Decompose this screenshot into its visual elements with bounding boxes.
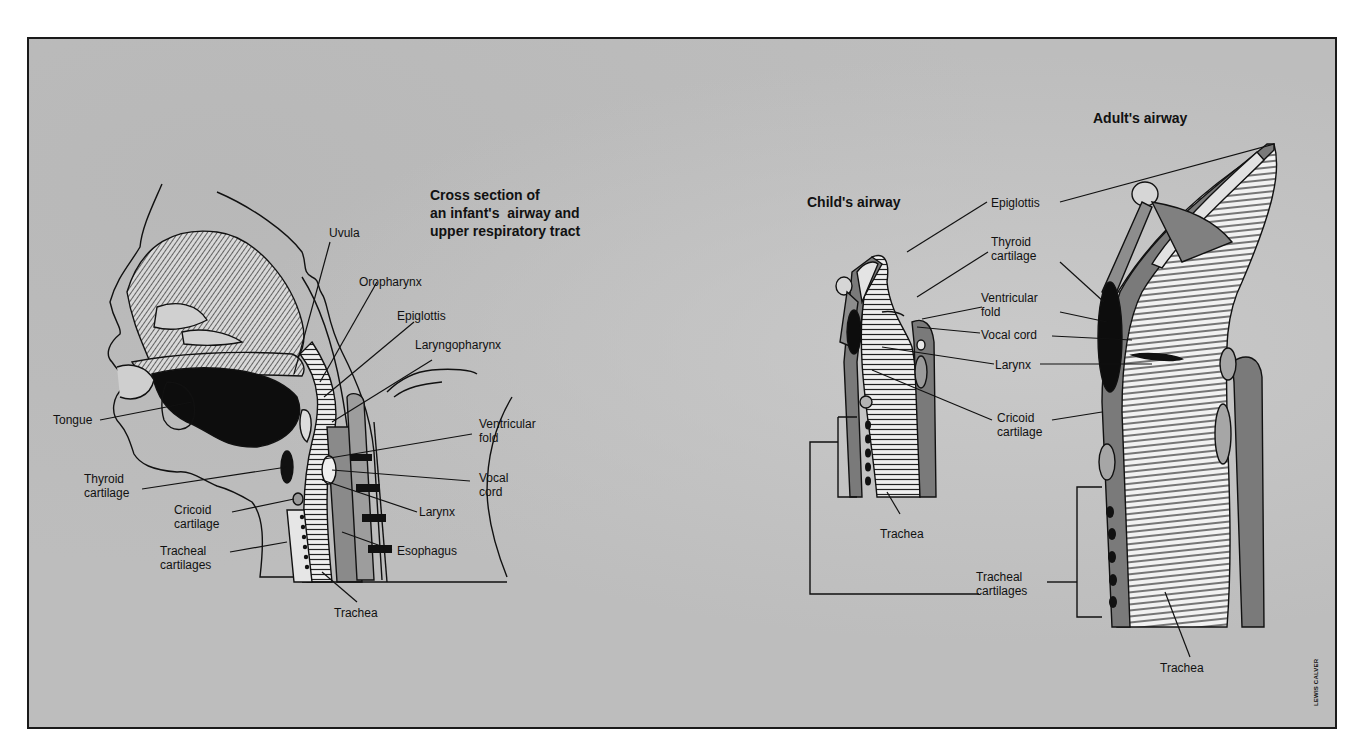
child-airway-title: Child's airway — [807, 193, 901, 211]
adult-airway-diagram — [1047, 144, 1277, 627]
label-cmp-thyroid-cartilage: Thyroid cartilage — [991, 235, 1036, 263]
label-esophagus: Esophagus — [397, 544, 457, 558]
label-laryngopharynx: Laryngopharynx — [415, 338, 501, 352]
label-thyroid-cartilage: Thyroid cartilage — [84, 472, 129, 500]
label-cmp-adult-trachea: Trachea — [1160, 661, 1204, 675]
label-cmp-vocal-cord: Vocal cord — [981, 328, 1037, 342]
infant-section-title: Cross section of an infant's airway and … — [430, 186, 580, 240]
child-airway-diagram — [810, 256, 979, 594]
label-tracheal-cartilages: Tracheal cartilages — [160, 544, 211, 572]
label-cmp-tracheal-cartilages: Tracheal cartilages — [976, 570, 1027, 598]
label-cmp-cricoid-cartilage: Cricoid cartilage — [997, 411, 1042, 439]
illustration-frame: Cross section of an infant's airway and … — [27, 37, 1337, 729]
label-larynx: Larynx — [419, 505, 455, 519]
label-uvula: Uvula — [329, 226, 360, 240]
label-vocal-cord: Vocal cord — [479, 471, 508, 499]
label-trachea: Trachea — [334, 606, 378, 620]
label-cricoid-cartilage: Cricoid cartilage — [174, 503, 219, 531]
adult-airway-title: Adult's airway — [1093, 109, 1187, 127]
label-cmp-epiglottis: Epiglottis — [991, 196, 1040, 210]
illustrator-credit: LEWIS CALVER — [1313, 659, 1319, 706]
infant-head-diagram — [108, 184, 512, 582]
label-cmp-larynx: Larynx — [995, 358, 1031, 372]
anatomy-illustration — [29, 39, 1335, 727]
label-cmp-child-trachea: Trachea — [880, 527, 924, 541]
label-tongue: Tongue — [53, 413, 92, 427]
label-cmp-ventricular-fold: Ventricular fold — [981, 291, 1038, 319]
label-oropharynx: Oropharynx — [359, 275, 422, 289]
label-ventricular-fold: Ventricular fold — [479, 417, 536, 445]
label-epiglottis: Epiglottis — [397, 309, 446, 323]
